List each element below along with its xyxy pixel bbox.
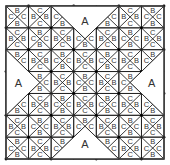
grid-cell: CCBB (51, 72, 74, 94)
grid-cell: CCBB (119, 93, 142, 115)
vertex-dot (117, 136, 120, 139)
triangle-label-left: B (144, 122, 149, 131)
triangle-label-right: C (89, 34, 95, 43)
triangle-label-top: B (15, 137, 20, 146)
vertex-dot (140, 114, 143, 117)
triangle-label-left: C (31, 122, 37, 131)
triangle-label-left: C (76, 78, 82, 87)
triangle-label-right: C (134, 122, 140, 131)
triangle-label-bottom: B (105, 106, 110, 115)
vertex-dot (27, 48, 30, 51)
grid-cell: CCBB (51, 28, 74, 50)
triangle-label-left: C (144, 56, 150, 65)
triangle-label-left: C (53, 56, 59, 65)
triangle-label-right: B (66, 122, 71, 131)
triangle-label-bottom: C (60, 40, 66, 49)
triangle-label-bottom: C (60, 128, 66, 137)
triangle-label-top: C (60, 28, 66, 37)
triangle-label-left: C (53, 100, 59, 109)
triangle-label-top: B (128, 28, 133, 37)
triangle-label-top: C (82, 50, 88, 59)
triangle-label-top: B (82, 72, 87, 81)
triangle-label-top: B (105, 137, 110, 146)
triangle-label-right: B (44, 144, 49, 153)
triangle-label-right: C (43, 78, 49, 87)
triangle-label-right: B (134, 56, 139, 65)
triangle-label-bottom: C (127, 150, 133, 159)
triangle-label-bottom: B (15, 19, 20, 28)
grid-cell: BBCC (119, 28, 142, 50)
triangle-label-top: B (150, 50, 155, 59)
triangle-label-left: C (144, 100, 150, 109)
triangle-label-left: B (31, 144, 36, 153)
triangle-label-right: B (66, 34, 71, 43)
triangle-label-right: C (89, 122, 95, 131)
triangle-label-right: C (111, 56, 117, 65)
triangle-label-top: B (15, 6, 20, 15)
triangle-label-top: C (127, 50, 133, 59)
triangle-label-top: C (127, 137, 133, 146)
triangle-label-left: C (31, 34, 37, 43)
triangle-label-bottom: B (128, 128, 133, 137)
triangle-label-bottom: B (37, 128, 42, 137)
triangle-label-top: C (127, 94, 133, 103)
triangle-label-top: B (37, 72, 42, 81)
triangle-label-top: B (37, 28, 42, 37)
triangle-label-right: C (156, 144, 162, 153)
triangle-label-right: B (111, 34, 116, 43)
grid-cell: CCBB (29, 6, 52, 28)
triangle-label-top: C (37, 50, 43, 59)
triangle-label-right: C (43, 122, 49, 131)
grid-cell: CCBB (6, 115, 29, 137)
vertex-dot (117, 48, 120, 51)
triangle-label-right: B (89, 56, 94, 65)
triangle-label-right: B (157, 34, 162, 43)
triangle-label-left: C (53, 144, 59, 153)
triangle-label-right: B (89, 100, 94, 109)
grid-cell: CCBB (74, 93, 97, 115)
triangle-label-top: B (105, 50, 110, 59)
grid-cell: CCBB (96, 72, 119, 94)
triangle-label-right: B (66, 78, 71, 87)
triangle-label-left: C (76, 34, 82, 43)
triangle-label-left: B (54, 122, 59, 131)
triangle-label-bottom: B (15, 150, 20, 159)
triangle-label-left: C (121, 122, 127, 131)
triangle-label-right: B (44, 56, 49, 65)
a-label: A (15, 77, 23, 89)
triangle-label-top: C (60, 72, 66, 81)
vertex-dot (140, 26, 143, 29)
grid-cell: BBCC (96, 50, 119, 72)
triangle-label-left: C (53, 12, 59, 21)
a-label: A (81, 15, 89, 27)
triangle-label-top: C (150, 28, 156, 37)
triangle-label-top: B (82, 116, 87, 125)
triangle-label-top: B (60, 137, 65, 146)
triangle-label-top: C (37, 137, 43, 146)
triangle-label-top: C (37, 94, 43, 103)
triangle-label-bottom: B (37, 40, 42, 49)
triangle-label-left: C (121, 78, 127, 87)
triangle-label-left: B (31, 12, 36, 21)
triangle-label-bottom: B (150, 150, 155, 159)
triangle-label-bottom: B (37, 84, 42, 93)
triangle-label-top: B (37, 116, 42, 125)
triangle-label-right: C (21, 56, 27, 65)
triangle-label-top: B (60, 94, 65, 103)
triangle-label-right: B (44, 12, 49, 21)
vertex-dot (50, 70, 53, 73)
triangle-label-left: B (8, 34, 13, 43)
triangle-label-bottom: C (15, 128, 21, 137)
triangle-label-left: B (8, 122, 13, 131)
triangle-label-bottom: C (105, 84, 111, 93)
vertex-dot (95, 114, 98, 117)
triangle-label-right: B (134, 100, 139, 109)
triangle-label-right: C (111, 144, 117, 153)
triangle-label-left: B (99, 78, 104, 87)
triangle-label-left: C (76, 122, 82, 131)
triangle-label-top: C (82, 94, 88, 103)
triangle-label-right: B (111, 78, 116, 87)
triangle-label-top: C (37, 6, 43, 15)
triangle-label-bottom: B (105, 19, 110, 28)
triangle-label-bottom: B (60, 19, 65, 28)
